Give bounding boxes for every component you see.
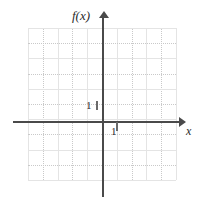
grid-line-vertical xyxy=(176,28,177,180)
x-axis-line xyxy=(13,121,183,123)
x-axis-label: x xyxy=(186,124,191,139)
coordinate-plane-figure: f(x) x 1 1 xyxy=(0,0,203,205)
y-axis-unit-tick xyxy=(96,101,98,110)
x-axis-unit-label: 1 xyxy=(111,124,117,138)
y-axis-unit-label: 1 xyxy=(86,98,92,112)
y-axis-line xyxy=(102,16,104,197)
x-axis-arrowhead-icon xyxy=(179,117,186,127)
y-axis-arrowhead-icon xyxy=(99,11,109,18)
y-axis-label: f(x) xyxy=(72,8,90,24)
